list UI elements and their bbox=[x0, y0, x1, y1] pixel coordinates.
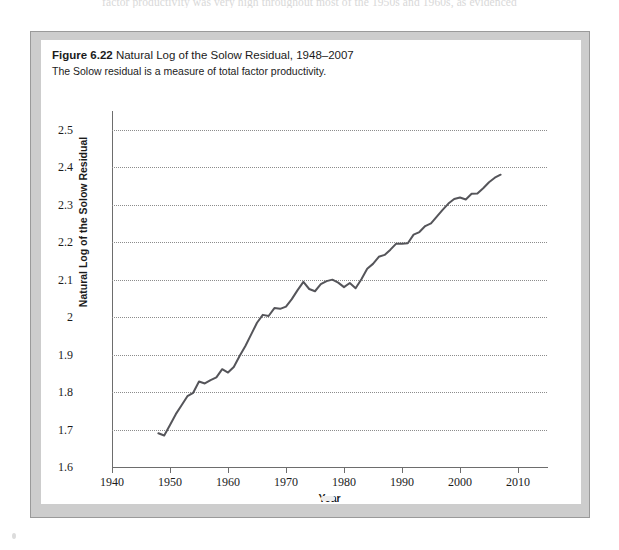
scan-artifact bbox=[12, 533, 16, 539]
x-tick-label: 2010 bbox=[493, 475, 543, 490]
x-tick-label: 1980 bbox=[319, 475, 369, 490]
y-tick-label: 2.5 bbox=[33, 123, 73, 138]
x-tick-label: 1990 bbox=[377, 475, 427, 490]
x-tick-label: 1950 bbox=[145, 475, 195, 490]
y-tick-label: 1.7 bbox=[33, 423, 73, 438]
y-tick-label: 1.8 bbox=[33, 385, 73, 400]
y-tick-label: 1.6 bbox=[33, 460, 73, 475]
y-tick-label: 2.4 bbox=[33, 160, 73, 175]
x-tick-label: 1970 bbox=[261, 475, 311, 490]
y-tick-label: 2.2 bbox=[33, 235, 73, 250]
y-axis-title: Natural Log of the Solow Residual bbox=[77, 72, 89, 372]
x-tick-mark bbox=[402, 468, 403, 473]
x-tick-mark bbox=[518, 468, 519, 473]
x-tick-label: 2000 bbox=[435, 475, 485, 490]
x-tick-label: 1940 bbox=[87, 475, 137, 490]
y-tick-label: 1.9 bbox=[33, 348, 73, 363]
y-tick-label: 2.3 bbox=[33, 198, 73, 213]
x-tick-mark bbox=[460, 468, 461, 473]
x-axis-line bbox=[112, 467, 548, 468]
data-series-line bbox=[112, 111, 547, 467]
chart-canvas: 1.61.71.81.922.12.22.32.42.5 19401950196… bbox=[41, 40, 581, 504]
figure-panel: Figure 6.22 Natural Log of the Solow Res… bbox=[30, 31, 590, 518]
y-tick-label: 2 bbox=[33, 310, 73, 325]
x-tick-mark bbox=[112, 468, 113, 473]
x-tick-mark bbox=[228, 468, 229, 473]
scan-artifact bbox=[321, 496, 335, 501]
x-tick-label: 1960 bbox=[203, 475, 253, 490]
figure-card: Figure 6.22 Natural Log of the Solow Res… bbox=[41, 40, 581, 504]
x-tick-mark bbox=[344, 468, 345, 473]
x-tick-mark bbox=[170, 468, 171, 473]
x-tick-mark bbox=[286, 468, 287, 473]
page-bleed-text: factor productivity was very high throug… bbox=[0, 0, 619, 8]
y-tick-label: 2.1 bbox=[33, 273, 73, 288]
